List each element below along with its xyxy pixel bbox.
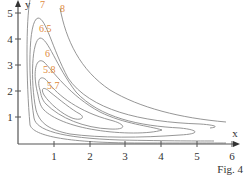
y-tick-label: 2 [7,85,13,97]
contour-7 [30,18,215,128]
y-tick-label: 1 [7,111,13,123]
contour-label-5.8: 5.8 [43,64,56,75]
contour-label-8: 8 [60,3,65,14]
x-tick-label: 6 [229,150,235,162]
y-axis-label: y [25,0,31,10]
x-tick-label: 4 [158,150,164,162]
x-axis-arrow-icon [233,141,240,147]
x-axis-label: x [232,127,238,139]
x-tick-label: 3 [122,150,128,162]
x-tick-label: 5 [194,150,200,162]
figure-caption: Fig. 4 [217,163,243,175]
y-tick-label: 3 [7,59,13,71]
contour-label-5.7: 5.7 [47,80,60,91]
x-tick-label: 1 [51,150,57,162]
contour-label-6: 6 [45,48,50,59]
contour-label-7: 7 [40,0,45,10]
contour-plot: 1 2 3 4 5 6 1 2 3 4 5 x y 5.7 5.8 6 6.5 … [0,0,244,181]
contour-8-upper [60,8,226,122]
x-tick-label: 2 [87,150,93,162]
y-tick-label: 4 [7,33,13,45]
y-tick-label: 5 [7,7,13,19]
contour-label-6.5: 6.5 [39,23,52,34]
contour-lines [27,0,226,143]
y-axis-arrow-icon [15,0,21,7]
